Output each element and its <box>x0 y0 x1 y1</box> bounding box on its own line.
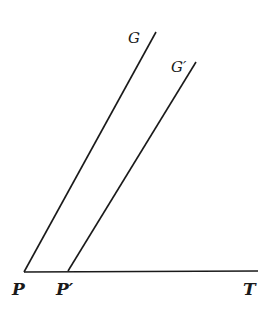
label-t: T <box>243 279 257 299</box>
line-p-to-t <box>24 271 258 272</box>
label-p-prime: P′ <box>55 279 74 299</box>
line-pprime-to-gprime <box>68 62 196 271</box>
geometry-diagram: G G′ P P′ T <box>0 0 277 312</box>
label-p: P <box>11 279 26 299</box>
label-g: G <box>128 29 140 47</box>
label-g-prime: G′ <box>171 58 187 76</box>
